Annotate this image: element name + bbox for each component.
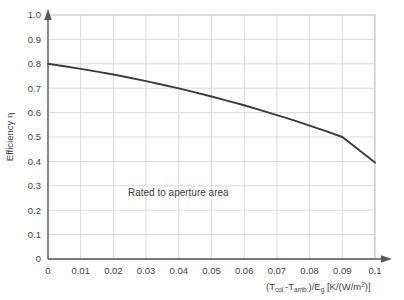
efficiency-chart: 00.010.020.030.040.050.060.070.080.090.1… — [0, 0, 404, 300]
x-tick-label: 0.07 — [268, 265, 287, 276]
x-axis-title-dash: -T — [285, 281, 294, 292]
y-tick-label: 0.7 — [28, 83, 41, 94]
y-tick-label: 0.8 — [28, 58, 41, 69]
y-tick-label: 0.4 — [28, 156, 41, 167]
x-tick-label: 0.06 — [235, 265, 254, 276]
chart-background — [0, 0, 404, 300]
x-axis-title-open: (T — [266, 281, 275, 292]
y-tick-label: 0.1 — [28, 229, 41, 240]
y-axis-title-text: Efficiency η — [4, 113, 15, 161]
y-tick-label: 0.9 — [28, 34, 41, 45]
x-tick-label: 0 — [45, 265, 50, 276]
x-axis-title-units-open: [K/(W/m — [324, 281, 361, 292]
x-tick-label: 0.01 — [71, 265, 90, 276]
x-tick-label: 0.05 — [202, 265, 221, 276]
x-tick-label: 0.03 — [137, 265, 156, 276]
chart-annotation: Rated to aperture area — [128, 187, 229, 198]
y-tick-label: 0.5 — [28, 131, 41, 142]
x-axis-title-close: )/E — [309, 281, 321, 292]
chart-figure: 00.010.020.030.040.050.060.070.080.090.1… — [0, 0, 404, 300]
y-tick-label: 0.2 — [28, 205, 41, 216]
x-tick-label: 0.1 — [368, 265, 381, 276]
x-axis-title-sub-col: col. — [275, 286, 285, 293]
x-tick-label: 0.04 — [170, 265, 189, 276]
y-tick-label: 0 — [36, 253, 41, 264]
x-axis-title-units-close: )] — [365, 281, 371, 292]
y-axis-title: Efficiency η — [4, 113, 15, 161]
x-tick-label: 0.09 — [333, 265, 352, 276]
x-tick-label: 0.08 — [300, 265, 319, 276]
y-tick-label: 1.0 — [28, 9, 41, 20]
x-tick-label: 0.02 — [104, 265, 123, 276]
y-tick-label: 0.6 — [28, 107, 41, 118]
x-axis-title-sub-amb: amb. — [294, 286, 309, 293]
y-tick-label: 0.3 — [28, 180, 41, 191]
